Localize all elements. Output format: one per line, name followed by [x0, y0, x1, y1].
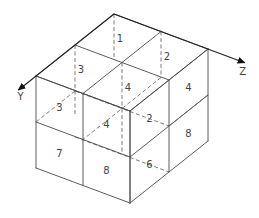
axes: Y Z — [16, 14, 246, 102]
cell-label-left: 7 — [56, 148, 62, 159]
cell-label-left: 8 — [103, 165, 109, 176]
z-axis-arrow — [114, 14, 245, 63]
cell-label-left: 4 — [103, 119, 109, 130]
y-axis-label: Y — [16, 91, 24, 102]
cell-label-top: 2 — [164, 51, 170, 62]
cell-label-right: 4 — [185, 82, 191, 93]
cell-label-right: 8 — [185, 128, 191, 139]
cell-label-right: 2 — [146, 113, 152, 124]
cell-label-left: 3 — [56, 102, 62, 113]
y-axis-arrow — [18, 14, 114, 90]
cell-label-right: 6 — [146, 159, 152, 170]
cell-label-top: 1 — [117, 33, 123, 44]
cell-label-top: 4 — [125, 82, 131, 93]
octant-cube-diagram: Y Z 123434784286 — [0, 0, 259, 218]
z-axis-label: Z — [239, 66, 246, 77]
cell-label-top: 3 — [78, 64, 84, 75]
